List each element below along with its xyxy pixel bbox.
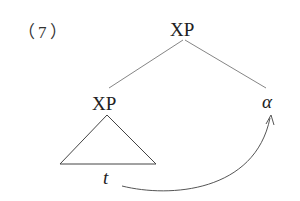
left-node-label: XP [92,94,116,113]
alpha-node-label: α [262,92,272,111]
tree-lines [0,0,300,201]
branch-root-left [109,40,183,88]
subtree-triangle [60,115,156,164]
trace-label: t [103,168,108,187]
branch-root-right [185,40,266,88]
root-node-label: XP [170,20,194,39]
